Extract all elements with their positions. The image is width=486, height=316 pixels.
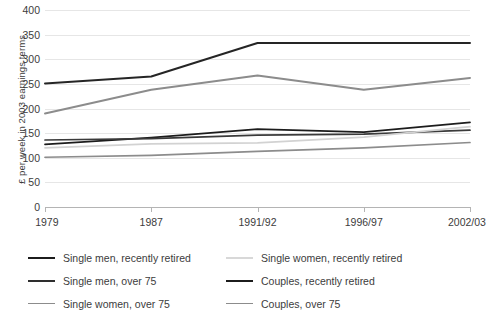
legend-item[interactable]: Couples, over 75 (226, 298, 468, 310)
y-axis-tick-label: 400 (22, 4, 40, 16)
legend-line-icon (226, 303, 253, 304)
x-axis-tick-mark (45, 207, 46, 212)
legend-line-icon (28, 280, 55, 282)
legend-line-icon (226, 280, 253, 282)
x-axis-tick-label: 1991/92 (239, 216, 277, 228)
legend-line-icon (226, 257, 253, 259)
legend-item-label: Single women, recently retired (261, 252, 402, 264)
x-axis-tick-mark (151, 207, 152, 212)
x-axis-tick-label: 1996/97 (345, 216, 383, 228)
y-axis-tick-label: 250 (22, 78, 40, 90)
x-axis-tick-mark (470, 207, 471, 212)
chart-legend: Single men, recently retiredSingle women… (28, 246, 468, 315)
x-axis-tick-label: 1987 (140, 216, 163, 228)
legend-line-icon (28, 303, 55, 304)
y-axis-tick-label: 300 (22, 53, 40, 65)
legend-item[interactable]: Single men, recently retired (28, 252, 226, 264)
plot-area: 050100150200250300350400 197919871991/92… (45, 10, 470, 207)
legend-item[interactable]: Couples, recently retired (226, 275, 468, 287)
legend-item[interactable]: Single men, over 75 (28, 275, 226, 287)
legend-item-label: Single women, over 75 (63, 298, 170, 310)
x-axis-tick-label: 2002/03 (448, 216, 486, 228)
y-axis-tick-label: 150 (22, 127, 40, 139)
legend-line-icon (28, 257, 55, 259)
legend-item-label: Single men, over 75 (63, 275, 156, 287)
series-line (45, 43, 470, 83)
y-axis-tick-label: 350 (22, 29, 40, 41)
legend-item-label: Couples, recently retired (261, 275, 375, 287)
series-lines (45, 10, 470, 207)
y-axis-tick-label: 50 (28, 176, 40, 188)
x-axis-tick-mark (258, 207, 259, 212)
y-axis-tick-label: 100 (22, 152, 40, 164)
y-axis-tick-label: 0 (34, 201, 40, 213)
series-line (45, 130, 470, 140)
y-axis-tick-label: 200 (22, 103, 40, 115)
legend-item-label: Couples, over 75 (261, 298, 340, 310)
x-axis-tick-mark (364, 207, 365, 212)
legend-item-label: Single men, recently retired (63, 252, 191, 264)
legend-item[interactable]: Single women, recently retired (226, 252, 468, 264)
x-axis-tick-label: 1979 (35, 216, 58, 228)
legend-item[interactable]: Single women, over 75 (28, 298, 226, 310)
series-line (45, 76, 470, 114)
